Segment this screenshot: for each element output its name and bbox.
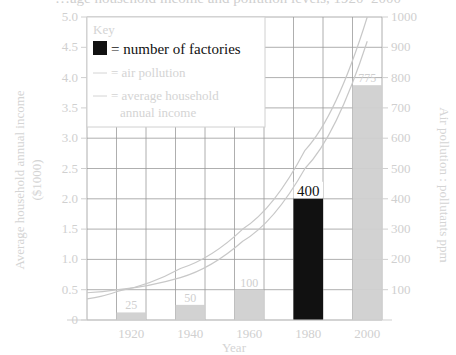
bar-label-1920: 25: [125, 298, 137, 312]
left-axis-label-unit: ($1000): [29, 159, 44, 200]
bar-1940: [176, 305, 206, 320]
svg-text:4.5: 4.5: [62, 39, 78, 54]
bar-1920: [117, 312, 147, 320]
legend-title: Key: [93, 22, 115, 37]
svg-text:3.0: 3.0: [62, 130, 78, 145]
svg-text:4.0: 4.0: [62, 70, 78, 85]
x-tick-1940: 1940: [177, 326, 203, 341]
svg-text:1.0: 1.0: [62, 251, 78, 266]
svg-text:2.0: 2.0: [62, 191, 78, 206]
svg-text:800: 800: [391, 70, 411, 85]
svg-text:200: 200: [391, 251, 411, 266]
bar-label-1980: 400: [297, 183, 320, 199]
svg-text:600: 600: [391, 130, 411, 145]
svg-text:1.5: 1.5: [62, 221, 78, 236]
svg-text:100: 100: [391, 282, 411, 297]
svg-text:400: 400: [391, 191, 411, 206]
bar-label-2000: 775: [358, 71, 376, 85]
svg-text:5.0: 5.0: [62, 9, 78, 24]
x-tick-1960: 1960: [236, 326, 262, 341]
x-axis: 19201940196019802000: [67, 320, 392, 341]
x-tick-1920: 1920: [118, 326, 144, 341]
legend: Key = number of factories = air pollutio…: [87, 17, 265, 127]
svg-text:0.5: 0.5: [62, 282, 78, 297]
x-tick-1980: 1980: [295, 326, 321, 341]
svg-text:500: 500: [391, 161, 411, 176]
legend-income-label-cont: annual income: [120, 105, 196, 120]
svg-text:3.5: 3.5: [62, 100, 78, 115]
x-tick-2000: 2000: [354, 326, 380, 341]
bar-2000: [353, 85, 383, 320]
legend-income-label: = average household: [111, 88, 219, 103]
right-axis-label: Air pollution : pollutants ppm: [437, 107, 452, 262]
x-axis-label: Year: [222, 340, 247, 355]
bar-1960: [235, 290, 265, 320]
svg-text:300: 300: [391, 221, 411, 236]
right-axis: 1002003004005006007008009001000: [382, 9, 417, 297]
svg-text:900: 900: [391, 39, 411, 54]
svg-text:2.5: 2.5: [62, 161, 78, 176]
legend-factories-swatch: [93, 41, 107, 55]
left-axis-label: Average household annual income: [12, 90, 27, 269]
bar-label-1940: 50: [184, 291, 196, 305]
svg-text:700: 700: [391, 100, 411, 115]
svg-text:1000: 1000: [391, 9, 417, 24]
chart: 2550100400775 00.51.01.52.02.53.03.54.04…: [0, 0, 456, 355]
legend-factories-label: = number of factories: [111, 41, 241, 57]
legend-air-pollution-label: = air pollution: [111, 65, 186, 80]
bar-1980: [294, 199, 324, 320]
left-axis: 00.51.01.52.02.53.03.54.04.55.0: [62, 9, 87, 327]
bar-label-1960: 100: [240, 276, 258, 290]
